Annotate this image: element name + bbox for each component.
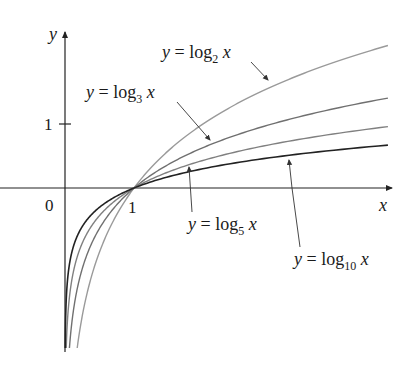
pointer-log10 <box>292 188 300 247</box>
label-log5: y = log5 x <box>186 214 257 238</box>
curve-log10 <box>65 145 388 348</box>
label-log2: y = log2 x <box>160 42 231 66</box>
y-tick-label-1: 1 <box>44 115 53 134</box>
pointer-log2 <box>251 62 268 80</box>
label-log3: y = log3 x <box>84 82 155 106</box>
pointer-log5 <box>189 167 192 212</box>
origin-label: 0 <box>45 196 54 215</box>
label-log10: y = log10 x <box>292 249 369 273</box>
pointer-log3 <box>177 102 210 140</box>
log-graph: y x 0 1 1 y = log2 x y = log3 x y = log5… <box>0 0 416 373</box>
curve-log5 <box>66 127 388 348</box>
x-axis-label: x <box>378 195 387 215</box>
x-tick-label-1: 1 <box>128 198 137 217</box>
pointer-log10-upper <box>289 160 292 188</box>
y-axis-label: y <box>47 24 57 44</box>
